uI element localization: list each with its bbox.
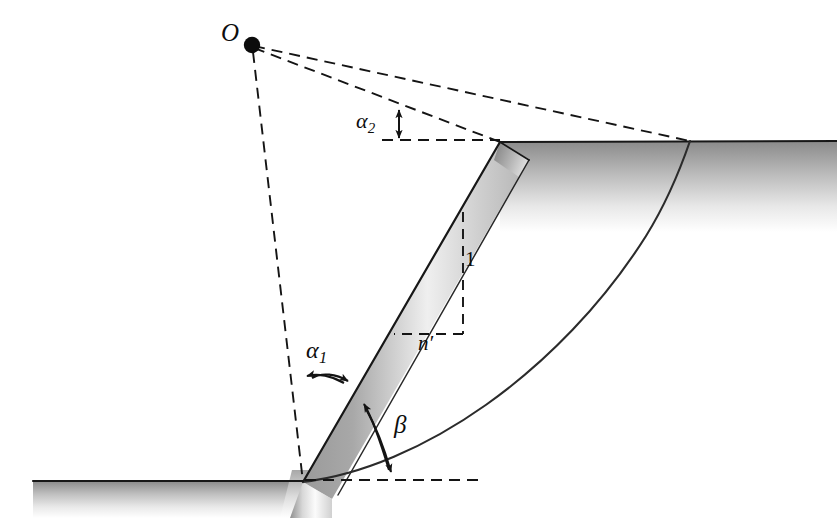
alpha2-symbol: α (356, 108, 368, 133)
radius-to-toe (253, 52, 303, 482)
slope-band (290, 142, 529, 518)
slope-band-far-edge (338, 160, 529, 495)
center-point-dot (244, 37, 260, 53)
upper-ground-mass (500, 141, 837, 232)
label-center-O: O (221, 20, 239, 45)
label-alpha2: α2 (356, 110, 375, 132)
label-unit-rise: 1 (465, 249, 476, 270)
alpha1-subscript: 1 (319, 348, 327, 367)
lower-ground-mass (33, 470, 330, 518)
diagram-canvas (0, 0, 837, 518)
slope-stability-figure: O α1 α2 β 1 n′ (0, 0, 837, 518)
label-unit-run: n′ (418, 333, 433, 354)
label-alpha1: α1 (306, 338, 327, 362)
alpha2-subscript: 2 (368, 120, 375, 136)
upper-ground-line (500, 141, 837, 142)
radius-to-slip-exit (254, 46, 690, 141)
radius-to-crest (254, 48, 500, 142)
alpha1-symbol: α (306, 337, 319, 363)
alpha1-arc (307, 374, 348, 383)
label-beta: β (394, 412, 406, 437)
